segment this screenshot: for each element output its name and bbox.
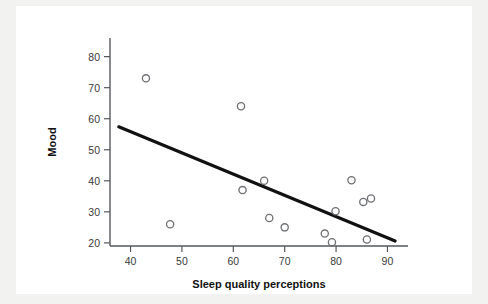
data-point-marker: [348, 177, 355, 184]
data-point-marker: [360, 198, 367, 205]
x-tick-label: 50: [176, 255, 188, 267]
data-point-marker: [281, 224, 288, 231]
chart-panel: 20304050607080405060708090Sleep quality …: [16, 6, 472, 294]
regression-line: [119, 127, 395, 241]
data-point-marker: [321, 230, 328, 237]
y-tick-label: 80: [88, 51, 100, 63]
figure-container: 20304050607080405060708090Sleep quality …: [0, 0, 488, 304]
data-point-marker: [363, 236, 370, 243]
data-point-marker: [332, 208, 339, 215]
data-point-marker: [239, 187, 246, 194]
x-tick-label: 80: [330, 255, 342, 267]
data-point-marker: [261, 177, 268, 184]
scatter-plot: 20304050607080405060708090Sleep quality …: [16, 6, 472, 294]
x-axis-title: Sleep quality perceptions: [192, 278, 325, 290]
x-tick-label: 60: [227, 255, 239, 267]
y-tick-label: 20: [88, 237, 100, 249]
y-tick-label: 40: [88, 175, 100, 187]
data-point-marker: [266, 214, 273, 221]
y-axis-title: Mood: [46, 127, 58, 156]
y-tick-label: 70: [88, 82, 100, 94]
x-tick-label: 40: [125, 255, 137, 267]
x-tick-label: 70: [279, 255, 291, 267]
data-point-marker: [167, 221, 174, 228]
data-point-marker: [237, 103, 244, 110]
y-tick-label: 60: [88, 113, 100, 125]
x-tick-label: 90: [382, 255, 394, 267]
y-tick-label: 30: [88, 206, 100, 218]
y-tick-label: 50: [88, 144, 100, 156]
data-point-marker: [328, 239, 335, 246]
data-point-marker: [142, 75, 149, 82]
data-point-marker: [367, 195, 374, 202]
